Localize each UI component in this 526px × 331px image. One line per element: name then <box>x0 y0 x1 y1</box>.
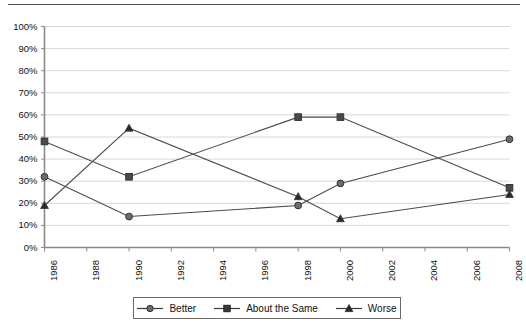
x-axis-tick-label: 1998 <box>303 259 313 280</box>
x-axis-tick-label: 1990 <box>134 259 144 280</box>
legend-marker-circle-icon <box>137 303 163 314</box>
y-axis-tick-label: 60% <box>0 110 38 120</box>
data-point-square-marker <box>337 114 344 121</box>
x-axis-tick-label: 1988 <box>91 259 101 280</box>
legend-item-about-the-same[interactable]: About the Same <box>205 303 327 314</box>
legend-marker-square-icon <box>214 303 240 314</box>
data-point-circle-marker <box>41 173 48 180</box>
x-axis-tick-label: 2000 <box>345 259 355 280</box>
legend-swatch <box>137 303 163 314</box>
x-axis-tick-label: 2002 <box>387 259 397 280</box>
legend-swatch <box>214 303 240 314</box>
series-about-the-same <box>41 114 513 191</box>
legend-item-better[interactable]: Better <box>128 303 205 314</box>
data-point-square-marker <box>41 138 48 145</box>
data-point-triangle-marker <box>294 193 302 200</box>
line-chart: 0%10%20%30%40%50%60%70%80%90%100% 198619… <box>0 0 526 331</box>
legend-marker-triangle-icon <box>336 303 362 314</box>
legend-item-label: Worse <box>368 303 397 314</box>
plot-canvas <box>0 0 526 331</box>
x-axis-tick-label: 1996 <box>260 259 270 280</box>
y-axis-tick-label: 100% <box>0 22 38 32</box>
x-axis-tick-label: 2006 <box>472 259 482 280</box>
x-axis-tick-label: 2008 <box>514 259 524 280</box>
data-point-triangle-marker <box>125 124 133 131</box>
y-axis-tick-label: 50% <box>0 132 38 142</box>
data-series-group <box>41 114 514 222</box>
legend-swatch <box>336 303 362 314</box>
data-point-circle-marker <box>126 213 133 220</box>
y-axis-tick-label: 80% <box>0 66 38 76</box>
y-axis-tick-label: 0% <box>0 243 38 253</box>
legend-item-label: About the Same <box>246 303 318 314</box>
x-axis-tick-label: 2004 <box>429 259 439 280</box>
legend-item-worse[interactable]: Worse <box>327 303 406 314</box>
gridlines-group <box>45 27 510 226</box>
data-point-circle-marker <box>337 180 344 187</box>
y-axis-tick-label: 20% <box>0 198 38 208</box>
y-axis-tick-label: 10% <box>0 220 38 230</box>
data-point-square-marker <box>126 173 133 180</box>
y-axis-tick-label: 70% <box>0 88 38 98</box>
series-better <box>41 136 513 220</box>
x-axis-tick-label: 1994 <box>218 259 228 280</box>
chart-root: 0%10%20%30%40%50%60%70%80%90%100% 198619… <box>0 0 526 331</box>
chart-legend: BetterAbout the SameWorse <box>133 297 401 319</box>
y-axis-tick-label: 30% <box>0 176 38 186</box>
x-axis-tick-label: 1986 <box>49 259 59 280</box>
legend-item-label: Better <box>169 303 196 314</box>
data-point-circle-marker <box>295 202 302 209</box>
data-point-square-marker <box>295 114 302 121</box>
data-point-circle-marker <box>506 136 513 143</box>
y-axis-tick-label: 40% <box>0 154 38 164</box>
x-axis-tick-label: 1992 <box>176 259 186 280</box>
series-line <box>45 128 510 219</box>
series-line <box>45 117 510 188</box>
y-axis-tick-label: 90% <box>0 44 38 54</box>
